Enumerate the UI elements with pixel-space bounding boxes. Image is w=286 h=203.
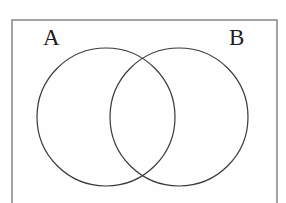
- venn-diagram-figure: A B: [0, 0, 286, 203]
- circle-b: [110, 48, 248, 186]
- set-label-b: B: [229, 26, 244, 49]
- set-label-a: A: [43, 26, 60, 49]
- circle-a: [37, 48, 175, 186]
